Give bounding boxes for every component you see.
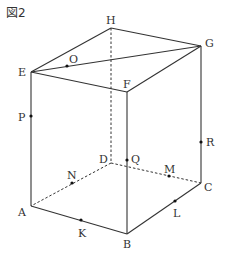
- point-Q: [125, 158, 128, 161]
- label-R: R: [206, 136, 215, 149]
- label-Q: Q: [131, 153, 140, 166]
- figure-title: 図2: [6, 6, 26, 20]
- label-P: P: [18, 111, 26, 124]
- label-M: M: [164, 163, 175, 176]
- edge-GF: [127, 46, 201, 92]
- label-C: C: [204, 181, 212, 194]
- label-B: B: [123, 238, 131, 251]
- point-L: [173, 199, 176, 202]
- label-H: H: [106, 14, 116, 27]
- edge-DC: [111, 163, 201, 183]
- label-F: F: [123, 78, 131, 91]
- label-A: A: [17, 206, 27, 219]
- edge-HG: [111, 28, 201, 46]
- edge-FE: [31, 72, 127, 92]
- label-K: K: [78, 227, 87, 240]
- label-E: E: [18, 66, 26, 79]
- label-L: L: [173, 207, 181, 220]
- label-G: G: [205, 37, 214, 50]
- label-N: N: [67, 169, 77, 182]
- point-P: [29, 114, 32, 117]
- label-D: D: [99, 153, 108, 166]
- label-O: O: [69, 53, 78, 66]
- point-K: [79, 218, 82, 221]
- edge-BC: [127, 183, 201, 234]
- point-R: [199, 140, 202, 143]
- diagonal-EG: [31, 46, 201, 72]
- prism-diagram: 図2 H E G F D A B C O P Q R M N K L: [0, 0, 225, 261]
